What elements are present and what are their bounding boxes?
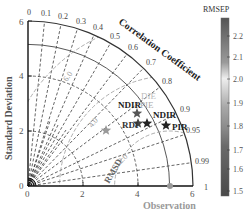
star-pir <box>161 120 171 130</box>
corr-tick: 1 <box>204 183 208 192</box>
cb-tick: 2.2 <box>233 32 243 41</box>
cb-tick: 1.9 <box>233 99 243 108</box>
observation-point <box>167 183 173 189</box>
y-tick: 0 <box>19 181 24 191</box>
taylor-diagram: 0 2 4 6 0 2 4 6 0 0.1 0.2 0.3 0.4 0.5 0.… <box>0 0 250 222</box>
corr-tick: 0.99 <box>195 157 209 166</box>
y-tick: 4 <box>19 71 24 81</box>
label-pie: PIE <box>140 100 154 110</box>
corr-tick: 0.1 <box>41 9 51 18</box>
cb-tick: 1.6 <box>233 165 243 174</box>
corr-tick: 0.7 <box>146 58 156 67</box>
cb-tick: 2.0 <box>233 75 243 84</box>
cb-tick: 1.5 <box>233 187 243 196</box>
label-ndir2: NDIR <box>118 100 142 110</box>
corr-tick: 0.4 <box>93 23 103 32</box>
cb-tick: 2.1 <box>233 53 243 62</box>
corr-tick: 0.9 <box>180 105 190 114</box>
corr-tick: 0.5 <box>110 32 120 41</box>
label-die: DIE <box>141 91 156 101</box>
rmsd-tick: 4.0 <box>87 116 100 129</box>
std-arcs <box>28 76 138 186</box>
x-tick: 0 <box>25 189 30 199</box>
corr-tick: 0 <box>27 8 31 17</box>
label-rdi: RDI <box>122 120 139 130</box>
x-axis-title: Observation <box>143 200 196 211</box>
y-axis-title: Standard Deviation <box>3 76 14 160</box>
corr-tick: 0.2 <box>58 12 68 21</box>
y-tick: 6 <box>19 17 24 27</box>
y-tick: 2 <box>19 126 24 136</box>
corr-tick: 0.3 <box>76 17 86 26</box>
cb-tick: 1.7 <box>233 146 243 155</box>
star-gray <box>101 125 111 135</box>
corr-tick: 0.8 <box>162 77 172 86</box>
x-tick: 2 <box>80 189 85 199</box>
corr-tick: 0.6 <box>128 43 138 52</box>
x-tick: 4 <box>135 189 140 199</box>
rmsd-tick: 6.0 <box>61 70 74 83</box>
x-tick: 6 <box>190 189 195 199</box>
label-pir: PIR <box>172 122 188 132</box>
cb-tick: 1.8 <box>233 122 243 131</box>
colorbar-title: RMSEP <box>203 5 230 14</box>
corr-tick: 0.95 <box>186 126 200 135</box>
label-ndir: NDIR <box>153 110 177 120</box>
